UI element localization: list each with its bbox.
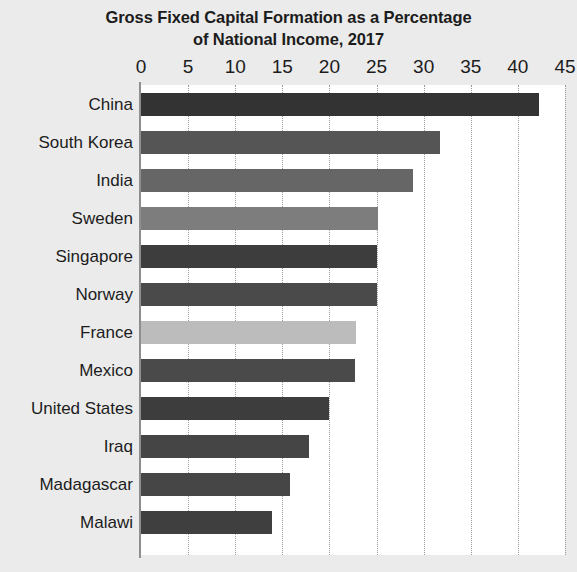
bar-china[interactable] — [141, 93, 539, 116]
chart-title-line-1: Gross Fixed Capital Formation as a Perce… — [0, 6, 577, 28]
bar-row[interactable] — [141, 389, 565, 427]
bar-india[interactable] — [141, 169, 413, 192]
x-tick-label-20: 20 — [319, 56, 340, 78]
x-tick-label-25: 25 — [366, 56, 387, 78]
y-tick-label-norway: Norway — [0, 285, 133, 305]
bar-malawi[interactable] — [141, 511, 272, 534]
bar-row[interactable] — [141, 275, 565, 313]
bar-chart-figure: Gross Fixed Capital Formation as a Perce… — [0, 0, 577, 572]
bar-france[interactable] — [141, 321, 356, 344]
bar-row[interactable] — [141, 351, 565, 389]
bar-sweden[interactable] — [141, 207, 378, 230]
bar-iraq[interactable] — [141, 435, 309, 458]
x-tick-label-5: 5 — [183, 56, 194, 78]
x-tick-label-35: 35 — [460, 56, 481, 78]
gridline-45 — [565, 85, 567, 555]
y-tick-label-mexico: Mexico — [0, 361, 133, 381]
bar-row[interactable] — [141, 199, 565, 237]
x-tick-label-0: 0 — [136, 56, 147, 78]
x-tick-label-45: 45 — [554, 56, 575, 78]
bar-united-states[interactable] — [141, 397, 329, 420]
bar-row[interactable] — [141, 427, 565, 465]
x-axis-tick-labels: 051015202530354045 — [0, 56, 577, 82]
bar-row[interactable] — [141, 237, 565, 275]
x-tick-label-30: 30 — [413, 56, 434, 78]
bar-row[interactable] — [141, 465, 565, 503]
y-tick-label-malawi: Malawi — [0, 513, 133, 533]
bar-row[interactable] — [141, 313, 565, 351]
bar-south-korea[interactable] — [141, 131, 440, 154]
y-tick-label-china: China — [0, 95, 133, 115]
bar-madagascar[interactable] — [141, 473, 290, 496]
bar-singapore[interactable] — [141, 245, 377, 268]
bar-row[interactable] — [141, 503, 565, 541]
y-tick-label-madagascar: Madagascar — [0, 475, 133, 495]
y-tick-label-india: India — [0, 171, 133, 191]
y-tick-label-sweden: Sweden — [0, 209, 133, 229]
bar-norway[interactable] — [141, 283, 377, 306]
y-tick-label-iraq: Iraq — [0, 437, 133, 457]
y-tick-label-singapore: Singapore — [0, 247, 133, 267]
x-tick-label-10: 10 — [225, 56, 246, 78]
chart-title: Gross Fixed Capital Formation as a Perce… — [0, 6, 577, 50]
bar-mexico[interactable] — [141, 359, 355, 382]
y-tick-label-united-states: United States — [0, 399, 133, 419]
chart-title-line-2: of National Income, 2017 — [0, 28, 577, 50]
y-axis-category-labels: ChinaSouth KoreaIndiaSwedenSingaporeNorw… — [0, 85, 133, 555]
bar-row[interactable] — [141, 123, 565, 161]
y-tick-label-south-korea: South Korea — [0, 133, 133, 153]
x-tick-label-40: 40 — [507, 56, 528, 78]
bars-layer — [141, 85, 565, 555]
bar-row[interactable] — [141, 161, 565, 199]
x-tick-label-15: 15 — [272, 56, 293, 78]
y-tick-label-france: France — [0, 323, 133, 343]
bar-row[interactable] — [141, 85, 565, 123]
